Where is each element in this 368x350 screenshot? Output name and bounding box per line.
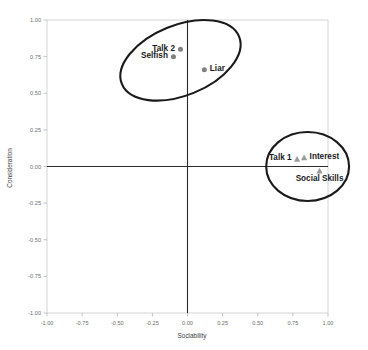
x-tick-label: -0.50 (111, 320, 124, 326)
x-tick-label: -1.00 (41, 320, 54, 326)
scatter-plot-figure: -1.00-0.75-0.50-0.250.000.250.500.751.00… (0, 0, 368, 350)
cluster-outlines (109, 4, 349, 201)
x-tick-label: 0.75 (287, 320, 298, 326)
data-point-marker (171, 54, 176, 59)
y-tick-label: 0.25 (30, 127, 41, 133)
upper-cluster-ellipse (109, 4, 253, 117)
x-axis-ticks: -1.00-0.75-0.50-0.250.000.250.500.751.00 (41, 313, 334, 326)
data-point-marker (202, 67, 207, 72)
zero-reference-lines (47, 20, 328, 313)
x-tick-label: 0.50 (252, 320, 263, 326)
x-tick-label: 0.00 (182, 320, 193, 326)
data-point-marker (316, 168, 322, 174)
y-tick-label: -0.25 (28, 200, 41, 206)
data-markers (171, 47, 323, 174)
y-axis-title: Consideration (6, 148, 13, 188)
y-axis-ticks: -1.00-0.75-0.50-0.250.000.250.500.751.00 (28, 17, 47, 316)
data-point-marker (294, 156, 300, 162)
x-tick-label: 1.00 (323, 320, 334, 326)
data-point-marker (178, 47, 183, 52)
y-tick-label: 0.50 (30, 90, 41, 96)
data-point-label: Interest (310, 152, 340, 161)
x-tick-label: -0.25 (146, 320, 159, 326)
data-point-label: Talk 1 (269, 153, 292, 162)
plot-canvas: -1.00-0.75-0.50-0.250.000.250.500.751.00… (0, 0, 368, 350)
y-tick-label: -0.50 (28, 237, 41, 243)
y-tick-label: 1.00 (30, 17, 41, 23)
x-axis-title: Sociability (178, 332, 208, 340)
data-point-label: Selfish (141, 51, 168, 60)
data-point-labels: Talk 2SelfishLiarTalk 1InterestSocial Sk… (141, 44, 344, 184)
y-tick-label: -0.75 (28, 273, 41, 279)
data-point-label: Liar (210, 64, 226, 73)
y-tick-label: -1.00 (28, 310, 41, 316)
data-point-label: Social Skills (296, 174, 344, 183)
x-tick-label: 0.25 (217, 320, 228, 326)
y-tick-label: 0.00 (30, 164, 41, 170)
x-tick-label: -0.75 (76, 320, 89, 326)
y-tick-label: 0.75 (30, 54, 41, 60)
data-point-marker (301, 155, 307, 161)
